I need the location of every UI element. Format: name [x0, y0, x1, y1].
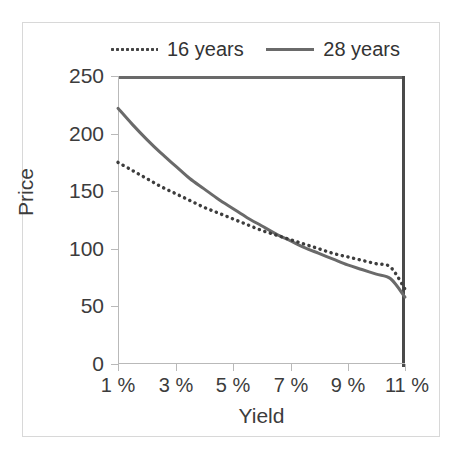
y-tick-mark-100 — [111, 249, 118, 250]
y-axis-title: Price — [14, 122, 38, 262]
x-axis-title: Yield — [118, 404, 405, 428]
x-tick-mark-3 — [176, 364, 177, 371]
chart-figure: 16 years 28 years 250 200 150 100 50 0 1… — [0, 0, 463, 457]
legend-label-16-years: 16 years — [167, 38, 244, 61]
legend-entry-16-years: 16 years — [110, 38, 244, 61]
x-tick-mark-7 — [291, 364, 292, 371]
y-tick-mark-200 — [111, 134, 118, 135]
chart-legend: 16 years 28 years — [110, 36, 400, 62]
x-tick-mark-5 — [233, 364, 234, 371]
y-tick-label-0: 0 — [48, 352, 104, 376]
y-tick-mark-150 — [111, 191, 118, 192]
series-curves — [118, 76, 405, 364]
legend-entry-28-years: 28 years — [266, 38, 400, 61]
y-tick-label-250: 250 — [48, 64, 104, 88]
dotted-line-swatch-icon — [110, 42, 158, 56]
x-tick-mark-9 — [348, 364, 349, 371]
y-tick-label-50: 50 — [48, 294, 104, 318]
y-tick-mark-0 — [111, 364, 118, 365]
x-tick-mark-1 — [118, 364, 119, 371]
x-tick-label-11: 11 % — [372, 374, 442, 397]
x-tick-mark-11 — [405, 364, 406, 371]
solid-line-swatch-icon — [266, 42, 314, 56]
plot-area — [118, 76, 405, 364]
y-tick-label-100: 100 — [48, 237, 104, 261]
y-tick-label-150: 150 — [48, 179, 104, 203]
y-tick-label-200: 200 — [48, 122, 104, 146]
y-tick-mark-50 — [111, 306, 118, 307]
legend-label-28-years: 28 years — [323, 38, 400, 61]
y-tick-mark-250 — [111, 76, 118, 77]
line-series-28-years — [118, 108, 405, 297]
